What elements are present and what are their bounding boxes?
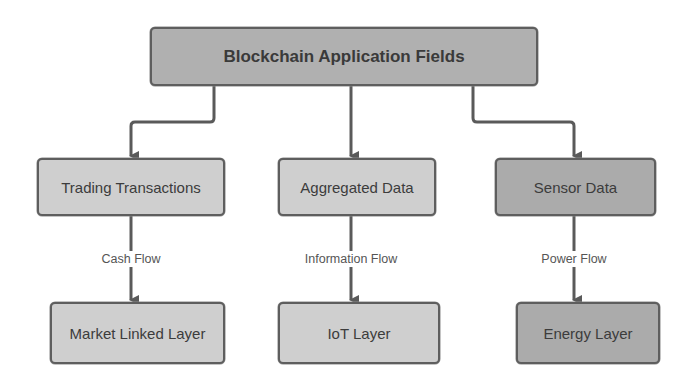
diagram-canvas: Blockchain Application Fields Trading Tr… xyxy=(0,0,691,384)
node-energy-layer: Energy Layer xyxy=(516,302,660,364)
node-label: Trading Transactions xyxy=(61,179,201,196)
node-trading-transactions: Trading Transactions xyxy=(37,158,225,216)
flow-label-cash-flow: Cash Flow xyxy=(99,251,162,267)
connector-root-to-sensor xyxy=(473,86,574,156)
node-label: Aggregated Data xyxy=(300,179,413,196)
node-label: Energy Layer xyxy=(543,325,632,342)
node-label: Sensor Data xyxy=(534,179,617,196)
node-label: IoT Layer xyxy=(327,325,390,342)
node-label: Market Linked Layer xyxy=(70,325,206,342)
flow-label-power-flow: Power Flow xyxy=(539,251,608,267)
connector-root-to-trading xyxy=(131,86,214,156)
node-market-linked-layer: Market Linked Layer xyxy=(50,302,225,364)
root-node-label: Blockchain Application Fields xyxy=(223,47,464,67)
node-iot-layer: IoT Layer xyxy=(278,302,440,364)
node-aggregated-data: Aggregated Data xyxy=(278,158,436,216)
flow-label-information-flow: Information Flow xyxy=(303,251,399,267)
root-node-blockchain-application-fields: Blockchain Application Fields xyxy=(150,27,538,86)
node-sensor-data: Sensor Data xyxy=(495,158,656,216)
